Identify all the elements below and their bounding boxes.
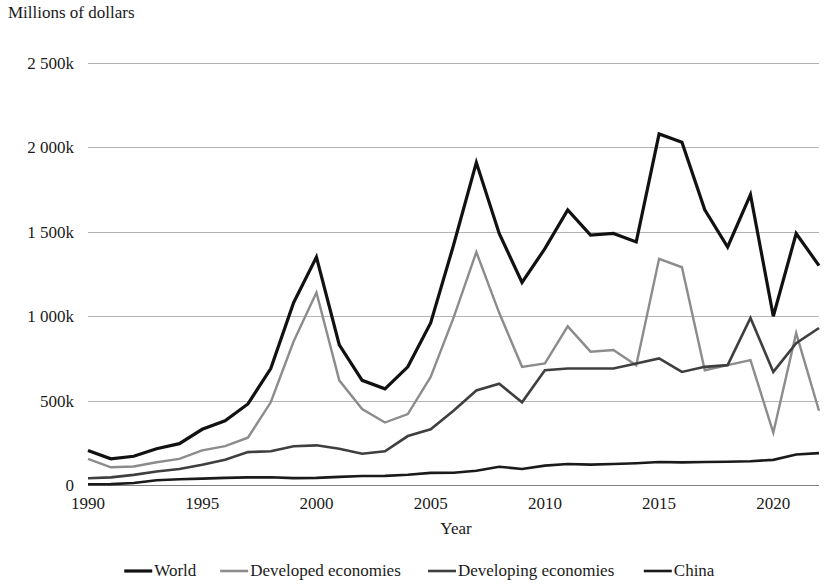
legend-label: Developed economies [250, 561, 401, 580]
x-axis-title: Year [440, 519, 472, 538]
y-tick-label: 2 000k [27, 138, 74, 157]
legend-item[interactable]: China [644, 561, 715, 580]
y-tick-label: 1 500k [27, 223, 74, 242]
y-axis-tick-labels: 0500k1 000k1 500k2 000k2 500k [27, 54, 74, 495]
x-tick-label: 2020 [756, 494, 790, 513]
x-tick-label: 1990 [71, 494, 105, 513]
x-tick-label: 2005 [414, 494, 448, 513]
y-axis-title: Millions of dollars [8, 3, 135, 22]
fdi-line-chart: 0500k1 000k1 500k2 000k2 500k 1990199520… [0, 0, 834, 586]
y-tick-label: 1 000k [27, 307, 74, 326]
y-tick-label: 2 500k [27, 54, 74, 73]
legend-label: World [154, 561, 197, 580]
x-tick-label: 1995 [185, 494, 219, 513]
x-tick-label: 2010 [528, 494, 562, 513]
x-axis-tick-labels: 1990199520002005201020152020 [71, 494, 790, 513]
x-tick-label: 2015 [642, 494, 676, 513]
series-line-developed-economies [88, 252, 819, 467]
legend-item[interactable]: World [124, 561, 197, 580]
legend-label: Developing economies [458, 561, 614, 580]
legend-item[interactable]: Developed economies [220, 561, 401, 580]
x-tick-label: 2000 [299, 494, 333, 513]
y-tick-label: 500k [40, 392, 75, 411]
gridlines-group [88, 64, 819, 402]
legend-label: China [674, 561, 715, 580]
legend-item[interactable]: Developing economies [428, 561, 614, 580]
series-line-china [88, 453, 819, 484]
series-line-developing-economies [88, 318, 819, 478]
y-tick-label: 0 [66, 476, 75, 495]
series-group [88, 134, 819, 484]
chart-legend: WorldDeveloped economiesDeveloping econo… [124, 561, 715, 580]
chart-canvas: 0500k1 000k1 500k2 000k2 500k 1990199520… [0, 0, 834, 586]
